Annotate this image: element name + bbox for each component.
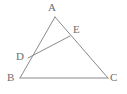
vertex-label-c: C [110, 72, 117, 83]
segment-ca [55, 17, 108, 78]
inner-cevian [28, 36, 70, 58]
triangle-diagram-svg [0, 0, 127, 94]
segment-ab [20, 17, 55, 78]
vertex-label-d: D [16, 51, 24, 62]
vertex-label-b: B [7, 72, 14, 83]
triangle-outline [20, 17, 108, 78]
vertex-label-e: E [73, 24, 80, 35]
vertex-label-a: A [48, 2, 56, 13]
segment-de [28, 36, 70, 58]
geometry-figure: A E D B C [0, 0, 127, 94]
